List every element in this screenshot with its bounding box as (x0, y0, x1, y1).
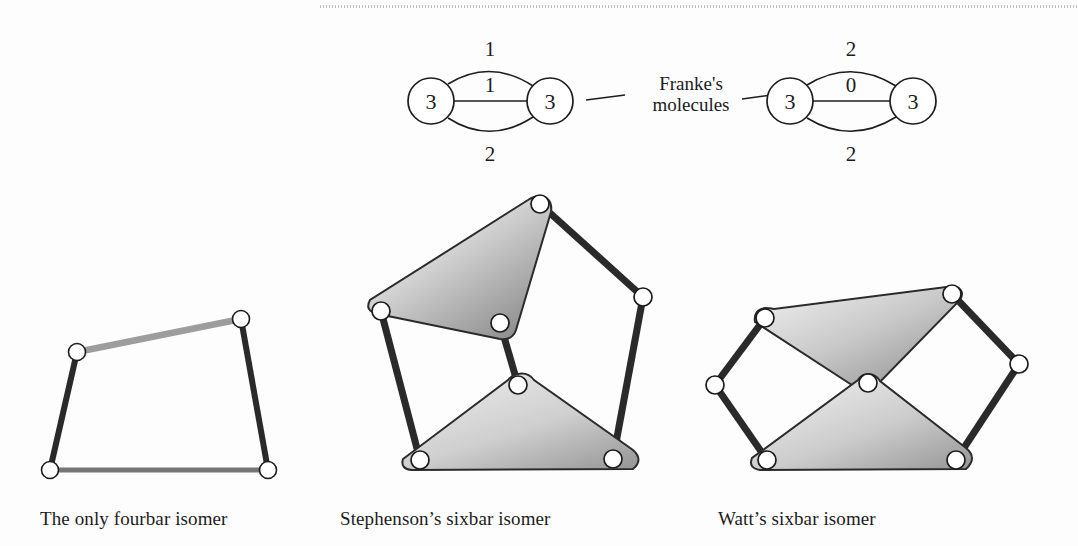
stephenson-sixbar-linkage (368, 195, 652, 470)
fourbar-joint-lower-right (260, 462, 277, 479)
fourbar-joint-lower-left (42, 462, 59, 479)
watt-joint-lower-left (758, 451, 776, 469)
caption-watt-sixbar: Watt’s sixbar isomer (718, 508, 876, 530)
stephenson-joint-right (634, 288, 652, 306)
caption-stephenson-sixbar: Stephenson’s sixbar isomer (340, 508, 551, 530)
watt-joint-far-left (706, 376, 724, 394)
fourbar-link-left-crank (50, 352, 77, 470)
fourbar-link-coupler (77, 319, 241, 352)
watt-binary-link-upper-left (715, 318, 765, 385)
caption-fourbar: The only fourbar isomer (40, 508, 228, 530)
watt-sixbar-linkage (706, 285, 1028, 470)
fourbar-linkage (42, 311, 277, 479)
watt-binary-link-lower-right (956, 364, 1019, 460)
watt-ternary-link-upper (755, 286, 962, 392)
watt-joint-upper-left (756, 309, 774, 327)
figure-page: 3 3 1 1 2 3 3 2 0 2 Franke's molecules (0, 0, 1078, 546)
linkage-isomers-diagram (0, 0, 1078, 546)
stephenson-binary-link-left-bottom (381, 311, 420, 460)
stephenson-joint-upper-left (372, 302, 390, 320)
stephenson-joint-lower-apex (509, 376, 527, 394)
watt-joint-center (859, 374, 877, 392)
watt-binary-link-lower-left (715, 385, 767, 460)
stephenson-binary-link-top-right (540, 204, 643, 297)
stephenson-ternary-link-upper-outline (368, 196, 551, 339)
watt-joint-far-right (1010, 355, 1028, 373)
watt-joint-upper-right (943, 285, 961, 303)
fourbar-joint-upper-right (233, 311, 250, 328)
stephenson-binary-link-right-bottom (613, 297, 643, 459)
stephenson-joint-top (531, 195, 549, 213)
stephenson-joint-upper-inner (491, 314, 509, 332)
stephenson-joint-lower-right (604, 450, 622, 468)
stephenson-joint-lower-left (411, 451, 429, 469)
fourbar-link-right-rocker (241, 319, 268, 470)
watt-binary-link-upper-right (952, 294, 1019, 364)
watt-joint-lower-right (947, 451, 965, 469)
fourbar-joint-upper-left (69, 344, 86, 361)
